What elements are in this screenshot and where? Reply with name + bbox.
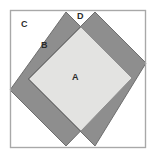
region-label-d: D (77, 12, 84, 21)
region-label-a: A (72, 73, 79, 82)
region-label-b: B (41, 41, 48, 50)
geometry-figure: A B C D (0, 0, 156, 158)
region-label-c: C (21, 20, 28, 29)
